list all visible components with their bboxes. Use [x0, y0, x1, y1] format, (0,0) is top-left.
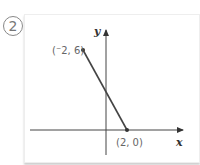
- point-b-label: (2, 0): [116, 137, 143, 148]
- point-a-label: (⁻2, 6): [52, 45, 84, 56]
- coordinate-plane: y x (⁻2, 6) (2, 0): [0, 0, 200, 165]
- point-b: [125, 128, 129, 132]
- y-axis-label: y: [93, 25, 102, 38]
- line-segment: [83, 50, 127, 130]
- x-axis-label: x: [175, 136, 183, 149]
